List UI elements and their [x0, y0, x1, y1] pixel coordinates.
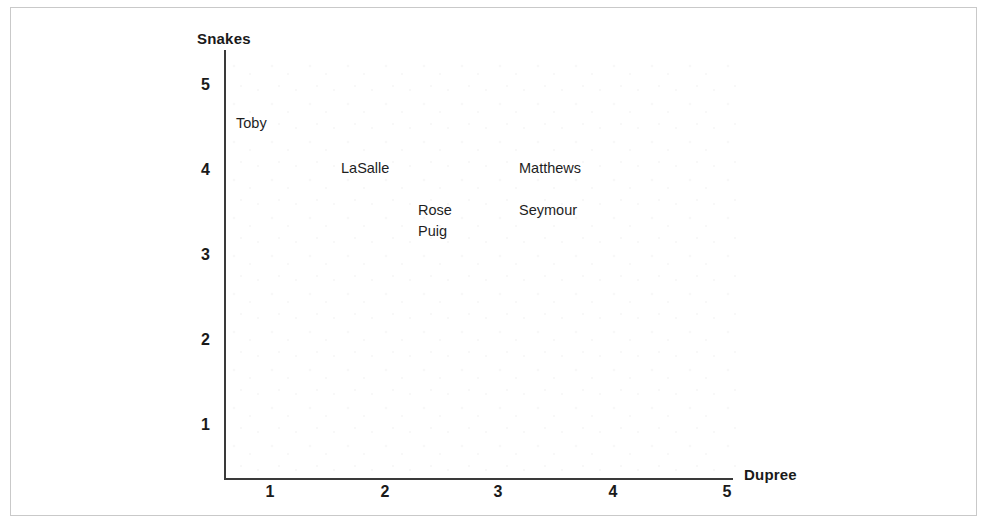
scatter-plot-figure: Snakes Dupree 5 4 3 2 1 1 2 3 4 5 Toby L… — [0, 0, 988, 532]
data-point-label-puig: Puig — [418, 224, 447, 239]
y-tick-label-1: 1 — [186, 417, 210, 433]
x-axis-title: Dupree — [744, 466, 797, 483]
data-point-label-lasalle: LaSalle — [341, 161, 389, 176]
x-tick-label-1: 1 — [258, 484, 282, 500]
y-axis-title: Snakes — [197, 30, 251, 47]
data-point-label-rose: Rose — [418, 203, 452, 218]
x-tick-label-3: 3 — [486, 484, 510, 500]
y-axis-line — [224, 50, 226, 480]
x-tick-label-5: 5 — [715, 484, 739, 500]
y-tick-label-2: 2 — [186, 332, 210, 348]
plot-area: Snakes Dupree 5 4 3 2 1 1 2 3 4 5 Toby L… — [0, 0, 988, 532]
x-tick-label-2: 2 — [373, 484, 397, 500]
y-tick-label-3: 3 — [186, 247, 210, 263]
y-tick-label-5: 5 — [186, 77, 210, 93]
data-point-label-seymour: Seymour — [519, 203, 577, 218]
y-tick-label-4: 4 — [186, 162, 210, 178]
x-tick-label-4: 4 — [601, 484, 625, 500]
data-point-label-toby: Toby — [236, 116, 267, 131]
x-axis-line — [224, 478, 733, 480]
data-point-label-matthews: Matthews — [519, 161, 581, 176]
